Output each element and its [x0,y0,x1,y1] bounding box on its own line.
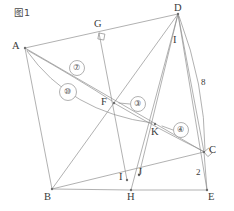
edge-D-E [178,14,207,190]
annotation-10-label: ⑩ [64,88,71,96]
annotation-4-label: ④ [177,126,184,134]
annotation-3-label: ③ [134,100,141,108]
edge-A-B [25,48,52,189]
vertex-label-c: C [209,145,216,156]
figure-caption: 图1 [14,8,30,18]
vertex-dot-f [113,102,115,104]
annotation-7-label: ⑦ [73,64,80,72]
edge-C-E [204,152,207,190]
vertex-label-h: H [127,192,135,203]
vertex-label-j: J [138,167,142,178]
geometry-figure-container: 图1 ABCDEFGHIJKI 82 ⑦⑩③④ [0,0,234,211]
vertex-dot-b [51,188,53,190]
vertex-label-i2: I [173,35,177,46]
right-angle-marker-g [98,33,105,40]
right-angle-markers-group [98,33,213,157]
vertex-dot-i [126,179,128,181]
segment-label-8: 8 [201,78,206,87]
vertex-label-b: B [44,192,51,203]
edge-B-H [52,189,131,190]
vertex-dot-c [203,151,205,153]
vertex-label-g: G [94,19,102,30]
geometry-svg-canvas [0,0,234,211]
vertex-label-i: I [119,172,123,183]
edges-group [25,14,207,190]
segment-label-2: 2 [196,168,201,177]
vertex-label-k: K [151,127,159,138]
vertex-label-a: A [12,41,20,52]
vertex-dots-group [24,13,208,191]
vertex-label-d: D [174,3,182,14]
annotation-4-curve [162,126,173,130]
vertex-label-e: E [208,192,214,203]
vertex-dot-a [24,47,26,49]
vertex-dot-k [154,123,156,125]
vertex-label-f: F [101,97,107,108]
